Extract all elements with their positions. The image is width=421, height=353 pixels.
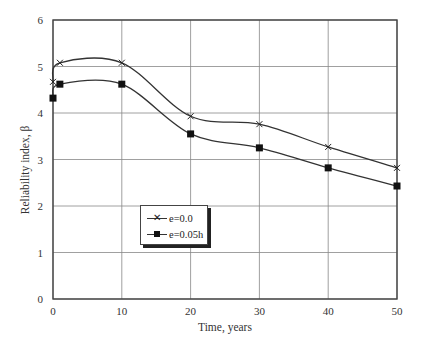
x-tick-label: 20 [185,305,197,317]
y-axis-label: Reliability index, β [19,126,32,215]
square-marker-icon [325,164,332,171]
legend-item-e0: ✕ e=0.0 [147,211,193,225]
y-tick-label: 3 [38,154,44,166]
y-tick-label: 2 [38,200,44,212]
square-marker-icon [118,81,125,88]
square-marker-icon [394,183,401,190]
legend-line: ✕ [147,218,167,219]
series-group [50,58,401,189]
legend-item-e005h: e=0.05h [147,227,203,241]
y-tick-label: 5 [38,61,44,73]
tick-labels: 010203040500123456 [38,14,404,317]
x-tick-label: 10 [116,305,128,317]
y-tick-label: 4 [38,107,44,119]
y-tick-label: 0 [38,293,44,305]
x-axis-label: Time, years [198,321,252,334]
square-marker-icon [56,81,63,88]
cross-marker-icon: ✕ [153,213,161,223]
square-marker-icon [256,144,263,151]
reliability-chart: 010203040500123456 Time, years Reliabili… [0,0,421,353]
legend-label: e=0.05h [169,229,203,240]
y-tick-label: 1 [38,247,44,259]
square-marker-icon [154,231,160,237]
legend-label: e=0.0 [169,213,193,224]
square-marker-icon [187,130,194,137]
legend: ✕ e=0.0 e=0.05h [140,205,208,245]
x-tick-label: 0 [50,305,56,317]
x-tick-label: 50 [392,305,404,317]
x-tick-label: 30 [254,305,266,317]
square-marker-icon [50,95,57,102]
y-tick-label: 6 [38,14,44,26]
series-line [53,80,397,186]
legend-line [147,234,167,235]
grid [53,20,397,299]
x-tick-label: 40 [323,305,335,317]
